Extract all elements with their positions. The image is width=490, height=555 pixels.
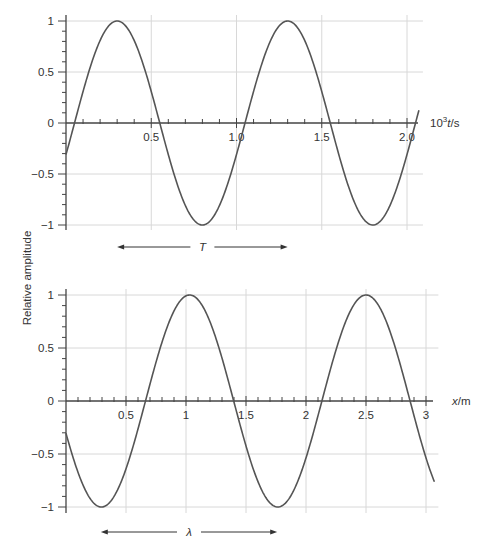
y-tick-label: 0.5 [38, 342, 54, 354]
arrow-left-icon [101, 530, 108, 535]
y-tick-label: −0.5 [31, 448, 54, 460]
y-tick-label: 0 [48, 395, 54, 407]
y-tick-label: −0.5 [31, 168, 54, 180]
wavelength-arrow: λ [101, 526, 277, 538]
y-tick-label: 0 [48, 117, 54, 129]
time-plot: 10.50−0.5−10.51.01.52.0103t/sT [31, 15, 459, 253]
x-tick-label: 0.5 [143, 131, 159, 143]
x-tick-label: 1.5 [238, 409, 254, 421]
y-tick-label: 0.5 [38, 66, 54, 78]
figure: Relative amplitude 10.50−0.5−10.51.01.52… [0, 0, 490, 555]
x-tick-label: 1.5 [314, 131, 330, 143]
period-arrow: T [117, 241, 288, 253]
x-tick-label: 2.5 [358, 409, 374, 421]
y-tick-label: 1 [48, 15, 54, 27]
wavelength-label: λ [185, 526, 192, 538]
x-axis-title: x/m [451, 395, 471, 407]
y-tick-label: −1 [41, 501, 54, 513]
x-tick-label: 1 [183, 409, 189, 421]
y-tick-label: 1 [48, 289, 54, 301]
axes [58, 15, 418, 230]
x-axis-title: 103t/s [430, 115, 460, 129]
x-tick-label: 2 [303, 409, 309, 421]
x-tick-label: 0.5 [118, 409, 134, 421]
arrow-left-icon [117, 245, 124, 250]
y-tick-label: −1 [41, 219, 54, 231]
period-label: T [199, 241, 207, 253]
arrow-right-icon [270, 530, 277, 535]
arrow-right-icon [281, 245, 288, 250]
space-plot: 10.50−0.5−10.511.522.53x/mλ [31, 289, 470, 538]
y-axis-title: Relative amplitude [21, 231, 33, 326]
x-tick-label: 3 [423, 409, 429, 421]
